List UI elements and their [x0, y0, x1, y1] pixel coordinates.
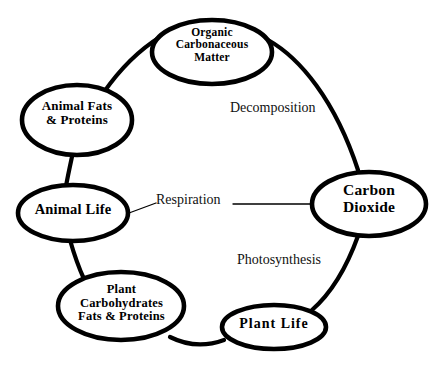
carbon-cycle-diagram: Organic Carbonaceous Matter Animal Fats …	[0, 0, 437, 368]
edge-plant-carbs-to-animal-life	[70, 240, 84, 279]
edge-photosynthesis	[312, 236, 358, 310]
node-animal-fats[interactable]	[22, 85, 132, 155]
node-plant-carbohydrates[interactable]	[58, 272, 184, 340]
node-organic-matter[interactable]	[152, 20, 272, 84]
edge-respiration-left-segment	[129, 203, 156, 213]
node-carbon-dioxide[interactable]	[312, 172, 426, 236]
edge-plant-life-to-plant-carbs	[170, 337, 224, 344]
node-animal-life[interactable]	[18, 185, 128, 241]
edge-decomposition	[268, 40, 358, 170]
cycle-graphics	[0, 0, 437, 368]
node-plant-life[interactable]	[222, 305, 326, 349]
